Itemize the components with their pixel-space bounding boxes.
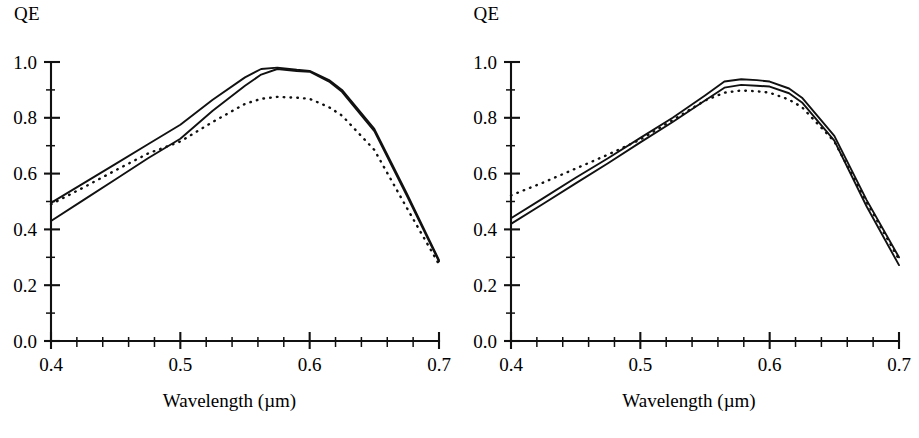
x-tick-label: 0.5 xyxy=(168,354,192,375)
y-tick-label: 0.4 xyxy=(473,219,497,240)
x-tick-label: 0.7 xyxy=(427,354,451,375)
curve-solid-upper xyxy=(51,68,439,261)
curve-solid-lower xyxy=(511,85,899,265)
y-tick-label: 0.0 xyxy=(473,331,497,352)
two-panel-qe-figure: QE 0.00.20.40.60.81.00.40.50.60.7 Wavele… xyxy=(0,0,919,438)
x-tick-label: 0.5 xyxy=(628,354,652,375)
chart-panel-right: QE 0.00.20.40.60.81.00.40.50.60.7 Wavele… xyxy=(460,0,919,438)
x-tick-label: 0.7 xyxy=(887,354,911,375)
chart-panel-left: QE 0.00.20.40.60.81.00.40.50.60.7 Wavele… xyxy=(0,0,460,438)
x-tick-label: 0.6 xyxy=(298,354,322,375)
y-tick-label: 0.0 xyxy=(13,331,37,352)
x-axis-title-right: Wavelength (µm) xyxy=(460,390,919,412)
y-tick-label: 0.8 xyxy=(473,107,497,128)
y-tick-label: 0.8 xyxy=(13,107,37,128)
plot-area-left: 0.00.20.40.60.81.00.40.50.60.7 xyxy=(0,0,459,400)
y-tick-label: 0.6 xyxy=(13,163,37,184)
y-tick-label: 0.2 xyxy=(13,275,37,296)
x-tick-label: 0.6 xyxy=(757,354,781,375)
curve-solid-lower xyxy=(51,69,439,262)
plot-area-right: 0.00.20.40.60.81.00.40.50.60.7 xyxy=(460,0,919,400)
y-tick-label: 0.4 xyxy=(13,219,37,240)
x-axis-title-left: Wavelength (µm) xyxy=(0,390,459,412)
x-tick-label: 0.4 xyxy=(39,354,63,375)
curve-dotted xyxy=(51,97,439,264)
curve-solid-upper xyxy=(511,79,899,257)
y-tick-label: 1.0 xyxy=(13,52,37,73)
y-tick-label: 0.2 xyxy=(473,275,497,296)
y-tick-label: 0.6 xyxy=(473,163,497,184)
curve-dotted xyxy=(511,90,899,259)
x-tick-label: 0.4 xyxy=(499,354,523,375)
axis-spine xyxy=(511,62,899,341)
y-tick-label: 1.0 xyxy=(473,52,497,73)
